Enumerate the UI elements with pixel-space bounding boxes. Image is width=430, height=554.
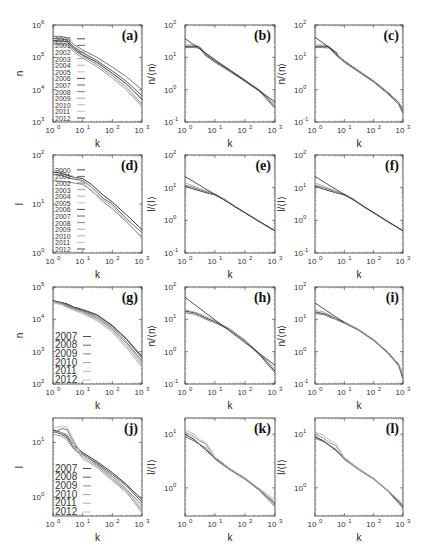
panel-label: (e) [255,158,271,174]
x-tick-exponent: 1 [219,255,223,261]
x-tick-label: 10 [46,388,55,397]
y-tick-exponent: 2 [173,149,177,155]
series-line [185,432,275,502]
x-tick-label: 10 [396,388,405,397]
x-tick-label: 10 [238,520,247,529]
power-law-fit-line [185,39,275,102]
y-axis-label: n/⟨n⟩ [146,325,157,347]
x-tick-label: 10 [337,388,346,397]
x-tick-exponent: 1 [219,386,223,392]
panel-label: (c) [383,28,399,44]
series-group [315,176,403,231]
x-tick-label: 10 [308,126,317,135]
series-group [315,303,403,379]
x-tick-exponent: 2 [249,518,253,524]
x-tick-exponent: 1 [348,518,352,524]
x-axis-label: k [95,400,101,411]
y-tick-exponent: 1 [173,428,177,434]
x-tick-exponent: 2 [249,124,253,130]
series-line [315,314,403,380]
panel-label: (g) [122,290,139,306]
power-law-fit-line [315,176,403,230]
panel-a: 100101102103k103104105106n(a)20002001200… [14,19,150,149]
panel-b: 100101102103k10-1100101102n/⟨n⟩(b) [146,19,283,149]
x-tick-exponent: 3 [407,124,411,130]
x-tick-label: 10 [308,257,317,266]
series-line [185,185,275,231]
x-tick-exponent: 3 [146,124,150,130]
x-tick-exponent: 0 [319,518,323,524]
legend-entry-label: 2012 [55,374,78,385]
x-tick-exponent: 3 [279,255,283,261]
x-tick-label: 10 [268,126,277,135]
x-tick-label: 10 [337,257,346,266]
x-tick-exponent: 2 [378,255,382,261]
legend-entry-label: 2012 [55,246,71,253]
x-tick-exponent: 1 [348,255,352,261]
panel-j: 100101102103k100101l(j)20072008200920102… [14,418,150,543]
panel-h: 100101102103k10-1100101102n/⟨n⟩(h) [146,281,283,411]
x-tick-exponent: 1 [348,386,352,392]
y-tick-exponent: 4 [41,84,45,90]
series-group [185,39,275,109]
panel-label: (k) [254,421,271,437]
series-line [315,46,403,111]
series-line [315,437,403,507]
y-tick-exponent: 1 [41,198,45,204]
x-tick-label: 10 [308,520,317,529]
x-axis-label: k [228,138,234,149]
y-tick-exponent: 2 [41,378,45,384]
x-tick-exponent: 3 [279,518,283,524]
x-tick-label: 10 [396,257,405,266]
x-axis-label: k [357,138,363,149]
y-tick-exponent: 0 [173,482,177,488]
power-law-fit-line [185,297,275,365]
x-axis-label: k [95,269,101,280]
y-tick-exponent: 1 [303,428,307,434]
x-tick-exponent: 0 [57,518,61,524]
y-tick-exponent: 1 [173,313,177,319]
y-axis-label: n [14,71,25,77]
y-axis-label: n/⟨n⟩ [276,325,287,347]
x-tick-exponent: 0 [319,255,323,261]
y-tick-exponent: 0 [303,482,307,488]
series-line [185,311,275,371]
x-tick-label: 10 [178,388,187,397]
y-tick-exponent: 3 [41,116,45,122]
power-law-fit-line [185,176,275,230]
x-tick-exponent: 0 [189,386,193,392]
x-tick-label: 10 [396,126,405,135]
x-tick-exponent: 0 [57,124,61,130]
y-tick-exponent: 5 [41,281,45,287]
x-tick-label: 10 [178,257,187,266]
y-axis-label: l [14,466,25,468]
y-tick-exponent: 2 [303,149,307,155]
y-tick-exponent: -1 [173,116,179,122]
series-line [315,186,403,230]
x-tick-label: 10 [105,388,114,397]
x-tick-exponent: 0 [57,255,61,261]
y-tick-exponent: 1 [303,51,307,57]
panel-g: 100101102103k102103104105n(g)20072008200… [14,281,150,411]
series-group [315,432,403,508]
panel-label: (l) [386,421,400,437]
panel-label: (j) [124,421,138,437]
x-tick-label: 10 [135,520,144,529]
y-tick-exponent: 1 [173,51,177,57]
x-tick-label: 10 [268,257,277,266]
panel-label: (h) [254,290,271,306]
series-group [315,37,403,114]
panel-label: (i) [386,290,400,306]
x-tick-label: 10 [105,126,114,135]
x-tick-label: 10 [75,126,84,135]
x-tick-label: 10 [337,126,346,135]
x-tick-label: 10 [135,388,144,397]
series-group [185,430,275,507]
y-tick-exponent: 0 [173,84,177,90]
y-axis-label: l [14,203,25,205]
x-tick-label: 10 [208,388,217,397]
y-axis-label: l/⟨l⟩ [276,459,287,474]
x-tick-label: 10 [178,520,187,529]
y-tick-exponent: 2 [173,281,177,287]
series-group [185,176,275,231]
